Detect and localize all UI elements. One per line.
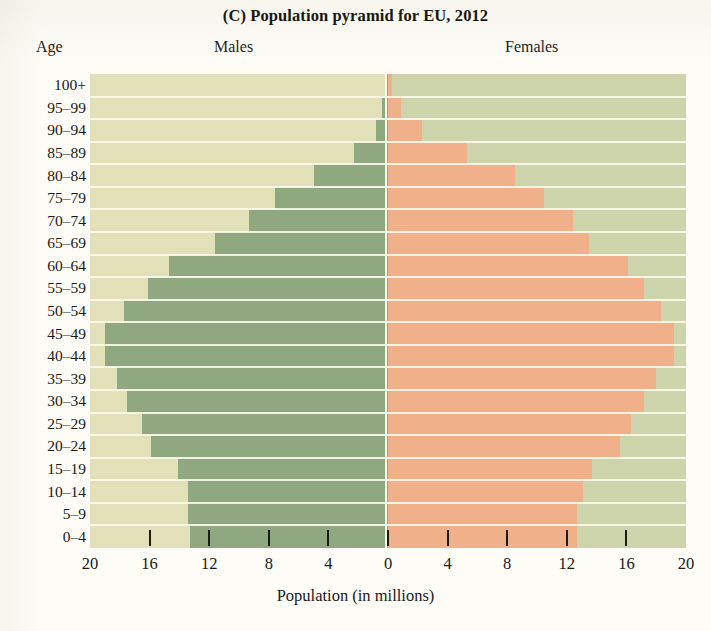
center-axis-line xyxy=(385,74,387,548)
bar-female xyxy=(388,322,674,345)
title-text: Population pyramid for EU, 2012 xyxy=(250,6,488,25)
pyramid-row xyxy=(90,458,686,481)
pyramid-row xyxy=(90,390,686,413)
bar-male xyxy=(169,255,388,278)
legend-label-males: Males xyxy=(214,38,253,56)
x-axis-tick xyxy=(506,530,508,546)
row-separator xyxy=(90,502,686,504)
bar-female xyxy=(388,277,644,300)
age-group-label: 0–4 xyxy=(8,529,86,545)
pyramid-row xyxy=(90,187,686,210)
bar-male xyxy=(151,435,388,458)
x-axis-tick-label: 0 xyxy=(368,554,408,574)
y-axis-age-labels: 100+95–9990–9485–8980–8475–7970–7465–696… xyxy=(4,74,86,548)
x-axis-tick xyxy=(387,530,389,546)
bar-male xyxy=(215,232,388,255)
bar-female xyxy=(388,525,577,548)
x-axis: 20161284048121620 xyxy=(90,548,686,618)
bar-male xyxy=(188,480,388,503)
x-axis-tick-label: 20 xyxy=(70,554,110,574)
x-axis-tick-label: 8 xyxy=(487,554,527,574)
pyramid-row xyxy=(90,74,686,97)
age-group-label: 55–59 xyxy=(8,280,86,296)
age-group-label: 25–29 xyxy=(8,416,86,432)
pyramid-row xyxy=(90,209,686,232)
bar-female xyxy=(388,345,674,368)
pyramid-row xyxy=(90,142,686,165)
pyramid-row xyxy=(90,300,686,323)
age-group-label: 85–89 xyxy=(8,145,86,161)
pyramid-row xyxy=(90,255,686,278)
x-axis-tick xyxy=(208,530,210,546)
pyramid-row xyxy=(90,119,686,142)
age-group-label: 100+ xyxy=(8,77,86,93)
row-separator xyxy=(90,524,686,526)
legend-label-females: Females xyxy=(505,38,558,56)
x-axis-tick xyxy=(149,530,151,546)
bar-male xyxy=(124,300,388,323)
bar-male xyxy=(105,345,388,368)
pyramid-row xyxy=(90,345,686,368)
age-group-label: 50–54 xyxy=(8,303,86,319)
bar-female xyxy=(388,480,583,503)
bar-female xyxy=(388,97,401,120)
bar-female xyxy=(388,413,631,436)
bar-male xyxy=(188,503,388,526)
bar-female xyxy=(388,255,628,278)
pyramid-row xyxy=(90,367,686,390)
age-group-label: 35–39 xyxy=(8,371,86,387)
row-separator xyxy=(90,141,686,143)
row-separator xyxy=(90,434,686,436)
x-axis-tick-label: 8 xyxy=(249,554,289,574)
pyramid-row xyxy=(90,413,686,436)
x-axis-tick-label: 16 xyxy=(606,554,646,574)
pyramid-row xyxy=(90,503,686,526)
row-separator xyxy=(90,366,686,368)
x-axis-tick xyxy=(566,530,568,546)
bar-female xyxy=(388,142,467,165)
row-separator xyxy=(90,299,686,301)
x-axis-tick-label: 16 xyxy=(130,554,170,574)
row-separator xyxy=(90,457,686,459)
row-separator xyxy=(90,276,686,278)
row-separator xyxy=(90,412,686,414)
row-separator xyxy=(90,231,686,233)
bar-female xyxy=(388,503,577,526)
x-axis-title: Population (in millions) xyxy=(0,586,711,606)
page-title: (C) Population pyramid for EU, 2012 xyxy=(0,6,711,26)
bar-male xyxy=(117,367,388,390)
bar-female xyxy=(388,390,644,413)
row-separator xyxy=(90,321,686,323)
bar-female xyxy=(388,209,573,232)
row-separator xyxy=(90,344,686,346)
bar-male xyxy=(105,322,388,345)
pyramid-row xyxy=(90,322,686,345)
bar-female xyxy=(388,435,620,458)
bar-male xyxy=(127,390,388,413)
plot-area xyxy=(90,74,686,548)
bar-female xyxy=(388,187,544,210)
bar-male xyxy=(142,413,388,436)
pyramid-row xyxy=(90,480,686,503)
x-axis-tick xyxy=(447,530,449,546)
row-separator xyxy=(90,389,686,391)
row-separator xyxy=(90,208,686,210)
bar-female xyxy=(388,300,661,323)
bar-female xyxy=(388,232,589,255)
bar-male xyxy=(178,458,388,481)
pyramid-row xyxy=(90,232,686,255)
row-separator xyxy=(90,186,686,188)
pyramid-row xyxy=(90,277,686,300)
x-axis-tick xyxy=(268,530,270,546)
row-separator xyxy=(90,118,686,120)
axis-label-age: Age xyxy=(36,38,63,56)
age-group-label: 65–69 xyxy=(8,235,86,251)
bar-male xyxy=(249,209,388,232)
x-axis-tick-label: 20 xyxy=(666,554,706,574)
x-axis-tick-label: 4 xyxy=(308,554,348,574)
bar-male xyxy=(314,164,389,187)
x-axis-tick-label: 12 xyxy=(189,554,229,574)
bar-female xyxy=(388,119,422,142)
age-group-label: 10–14 xyxy=(8,484,86,500)
age-group-label: 60–64 xyxy=(8,258,86,274)
